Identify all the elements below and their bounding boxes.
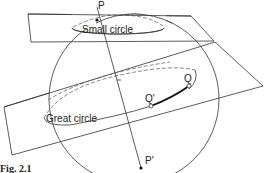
label-q: Q: [184, 73, 192, 84]
point-q-prime: [149, 104, 153, 108]
great-circle-plane: [4, 42, 263, 155]
figure-caption: Fig. 2.1: [0, 163, 31, 173]
label-p-prime: P': [145, 155, 154, 166]
point-p-prime: [139, 166, 142, 169]
label-q-prime: Q': [145, 93, 155, 104]
point-p: [95, 18, 98, 21]
label-p: P: [98, 0, 105, 11]
label-great-circle: Great circle: [46, 113, 98, 124]
great-circle-back: [44, 68, 195, 118]
sphere-outline: [49, 14, 219, 173]
point-q: [187, 84, 191, 88]
label-small-circle: Small circle: [82, 24, 134, 35]
sphere-diagram: P Small circle Great circle Q Q' P' Fig.…: [0, 0, 268, 173]
arc-q-q-prime: [151, 86, 189, 106]
